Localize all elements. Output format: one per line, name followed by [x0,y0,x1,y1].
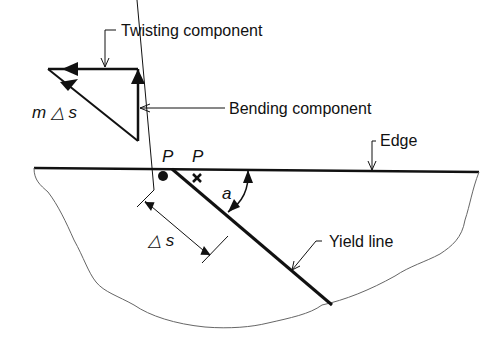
bending-leader [140,104,225,112]
moment-label: m △ s [32,103,78,122]
yield-line [172,169,332,305]
twisting-component-label: Twisting component [121,22,263,39]
edge-label: Edge [380,132,417,149]
point-dot-icon [158,171,168,181]
delta-s-label: △ s [147,231,175,250]
angle-arrowhead-top-icon [243,170,253,183]
bending-component-label: Bending component [229,100,372,117]
moment-vector-triangle [48,62,145,141]
slab-edge-line [34,168,479,172]
delta-s-dimension [137,0,228,263]
yield-line-leader [292,241,322,270]
slab-boundary [34,168,479,328]
point-cross-icon [193,174,201,182]
edge-leader [368,141,376,170]
yield-line-label: Yield line [329,233,393,250]
yield-line-diagram: Twisting component Bending component m △… [0,0,502,341]
twisting-leader [101,30,116,67]
point-p-cross-label: P [192,147,204,166]
angle-label: a [222,184,231,203]
twisting-arrowhead-icon [62,62,78,76]
point-p-dot-label: P [162,147,174,166]
